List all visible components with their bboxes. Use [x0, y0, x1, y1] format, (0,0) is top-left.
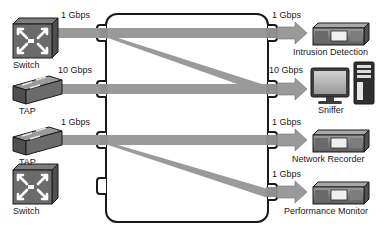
dest-label-3: Network Recorder — [292, 155, 365, 164]
source-label-3: TAP — [19, 158, 36, 167]
switch-icon-2[interactable] — [13, 164, 58, 204]
source-rate-2: 10 Gbps — [58, 66, 92, 75]
internal-path-2-to-2 — [108, 84, 266, 94]
tap-icon-1[interactable] — [13, 76, 62, 104]
output-arrow-4 — [277, 181, 307, 203]
output-arrow-3 — [277, 129, 307, 151]
dest-label-2: Sniffer — [318, 106, 344, 115]
network-topology-diagram — [0, 0, 381, 240]
internal-path-group — [108, 28, 268, 198]
source-rate-1: 1 Gbps — [61, 11, 90, 20]
dest-rate-4: 1 Gbps — [272, 170, 301, 179]
output-arrow-2 — [277, 78, 307, 100]
internal-path-1-to-1 — [108, 28, 266, 38]
input-link-3 — [58, 135, 100, 145]
input-link-1 — [58, 28, 100, 38]
workstation-icon[interactable] — [311, 62, 374, 104]
dest-label-1: Intrusion Detection — [293, 48, 368, 57]
source-label-4: Switch — [13, 207, 40, 216]
appliance-icon-3[interactable] — [313, 182, 369, 204]
internal-path-3-to-3 — [108, 135, 266, 145]
internal-path-3-to-4 — [108, 145, 268, 198]
appliance-icon-2[interactable] — [313, 130, 369, 152]
left-port-4[interactable] — [97, 178, 106, 194]
switch-icon-1[interactable] — [13, 18, 58, 58]
source-label-1: Switch — [13, 61, 40, 70]
input-link-group — [58, 28, 100, 145]
dest-label-4: Performance Monitor — [284, 207, 368, 216]
input-link-2 — [58, 84, 100, 94]
output-arrow-1 — [277, 22, 307, 44]
source-rate-3: 1 Gbps — [61, 118, 90, 127]
appliance-icon-1[interactable] — [313, 23, 369, 45]
dest-rate-3: 1 Gbps — [272, 118, 301, 127]
tap-icon-2[interactable] — [13, 127, 62, 155]
dest-rate-1: 1 Gbps — [272, 11, 301, 20]
source-label-2: TAP — [19, 107, 36, 116]
dest-rate-2: 10 Gbps — [269, 66, 303, 75]
